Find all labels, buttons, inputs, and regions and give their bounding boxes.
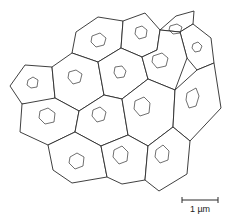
cell-network-diagram (0, 0, 229, 222)
cell-walls (10, 11, 221, 191)
scale-bar-label: 1 µm (181, 204, 219, 214)
cell (10, 65, 55, 104)
scale-bar (182, 197, 218, 203)
